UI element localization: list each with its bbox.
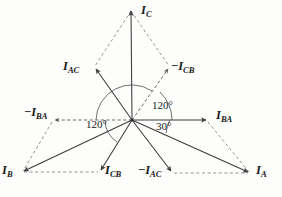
construction-line-side-left xyxy=(23,122,52,171)
phasor-subscript-ICB: CB xyxy=(110,169,121,179)
phasor-label-IBA-neg: −IBA xyxy=(24,106,47,119)
phasor-subscript-IB: B xyxy=(7,169,13,179)
angle-label-lower-right: 30° xyxy=(156,121,171,132)
phasor-label-ICB: ICB xyxy=(105,164,121,177)
phasor-subscript-IBA: BA xyxy=(221,114,232,124)
phasor-subscript-IC: C xyxy=(146,9,152,19)
phasor-subscript-ICB-neg: CB xyxy=(183,65,194,75)
phasor-arrow-IAC xyxy=(96,69,132,120)
angle-label-upper-right: 120° xyxy=(152,100,173,111)
construction-lines xyxy=(23,11,249,173)
phasor-label-IB: IB xyxy=(2,164,13,177)
phasor-label-IAC-neg: −IAC xyxy=(138,164,161,177)
phasor-subscript-IA: A xyxy=(261,169,267,179)
phasor-label-IAC: IAC xyxy=(63,60,79,73)
phasor-label-IA: IA xyxy=(256,164,267,177)
construction-line-diamond-right xyxy=(131,11,169,66)
phasor-arrows-solid xyxy=(24,11,248,172)
phasor-subscript-IAC-neg: AC xyxy=(150,169,161,179)
construction-line-diamond-left xyxy=(95,11,131,66)
angle-label-left: 120° xyxy=(86,119,107,130)
phasor-label-ICB-neg: −ICB xyxy=(171,60,194,73)
angle-arcs xyxy=(96,85,172,142)
angle-arc-major xyxy=(96,85,152,120)
construction-line-side-right xyxy=(208,122,249,172)
phasor-arrow-IC xyxy=(131,11,132,120)
phasor-label-IBA: IBA xyxy=(216,109,232,122)
phasor-subscript-IAC: AC xyxy=(68,65,79,75)
phasor-diagram: IC IAC −ICB −IBA IBA IB ICB −IAC IA 120°… xyxy=(0,0,282,197)
phasor-label-IC: IC xyxy=(141,4,152,17)
phasor-subscript-IBA-neg: BA xyxy=(36,111,47,121)
phasor-arrows-dashed xyxy=(55,69,168,120)
origin-point xyxy=(131,119,134,122)
